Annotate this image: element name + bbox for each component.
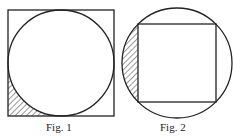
fig2-caption: Fig. 2	[160, 121, 186, 133]
fig2-square	[138, 24, 216, 102]
figure-1	[8, 10, 114, 116]
fig1-caption: Fig. 1	[46, 121, 72, 133]
fig1-hatched-corner	[8, 63, 61, 116]
fig1-circle	[8, 10, 114, 116]
figure-2	[122, 8, 232, 118]
diagram-canvas	[0, 0, 233, 137]
